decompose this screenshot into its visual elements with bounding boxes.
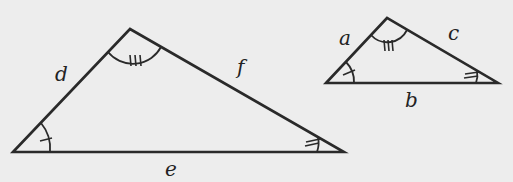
large-angle-top-tick — [135, 55, 136, 66]
large-angle-bottom-left-arc — [41, 123, 50, 152]
side-label-d: d — [55, 62, 68, 86]
large-triangle-outline — [13, 29, 344, 152]
large-angle-top-tick — [140, 55, 141, 66]
small-angle-top-tick — [384, 40, 385, 51]
side-label-a: a — [339, 26, 351, 50]
side-label-f: f — [235, 55, 248, 79]
large-angle-top-tick — [130, 55, 131, 66]
small-angle-top-tick — [392, 40, 393, 51]
small-angle-bottom-right-tick — [464, 76, 478, 78]
small-triangle: a c b — [326, 18, 498, 112]
similar-triangles-diagram: d f e a c b — [0, 0, 513, 182]
side-label-c: c — [448, 21, 459, 45]
small-angle-top-tick — [388, 40, 389, 51]
side-label-e: e — [165, 157, 177, 181]
large-triangle: d f e — [13, 29, 344, 181]
large-angle-bottom-right-tick — [305, 143, 319, 146]
small-angle-top-arc — [371, 30, 407, 42]
side-label-b: b — [405, 88, 418, 112]
